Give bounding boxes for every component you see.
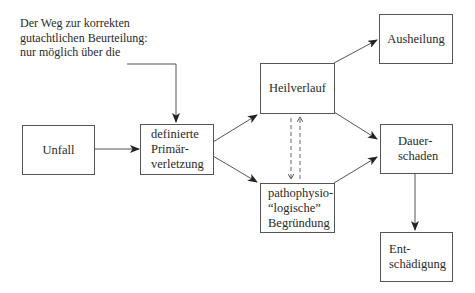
- edge-primaerverletzung-to-pathophysiologisch: [213, 156, 257, 182]
- node-primaerverletzung-line-3: verletzung: [151, 157, 204, 172]
- node-pathophysiologisch: pathophysio- “logische” Begründung: [260, 183, 335, 233]
- node-ausheilung: Ausheilung: [379, 14, 453, 64]
- node-unfall: Unfall: [22, 125, 95, 175]
- edge-heilverlauf-to-dauerschaden: [334, 112, 377, 139]
- node-dauerschaden-line-2: schaden: [398, 149, 438, 164]
- node-primaerverletzung: definierte Primär- verletzung: [140, 124, 214, 175]
- node-pathophysiologisch-line-1: pathophysio-: [268, 186, 333, 201]
- node-primaerverletzung-line-2: Primär-: [151, 142, 189, 157]
- edge-pathophysiologisch-to-dauerschaden: [334, 157, 377, 183]
- node-heilverlauf: Heilverlauf: [260, 63, 335, 114]
- node-heilverlauf-label: Heilverlauf: [269, 81, 326, 96]
- annotation-line-2: gutachtlichen Beurteilung:: [20, 31, 148, 46]
- annotation-line-1: Der Weg zur korrekten: [20, 16, 148, 31]
- node-ausheilung-label: Ausheilung: [387, 32, 445, 47]
- node-primaerverletzung-line-1: definierte: [151, 127, 199, 142]
- node-pathophysiologisch-line-3: Begründung: [268, 216, 330, 231]
- annotation-line-3: nur möglich über die: [20, 45, 148, 60]
- node-dauerschaden: Dauer- schaden: [380, 124, 453, 174]
- node-pathophysiologisch-line-2: “logische”: [268, 201, 321, 216]
- edge-heilverlauf-to-ausheilung: [334, 40, 377, 63]
- node-entschaedigung-line-1: Ent-: [389, 242, 411, 257]
- edge-annotation-to-primaerverletzung: [127, 64, 176, 122]
- node-dauerschaden-line-1: Dauer-: [398, 134, 432, 149]
- edge-primaerverletzung-to-heilverlauf: [213, 115, 257, 142]
- annotation-text: Der Weg zur korrekten gutachtlichen Beur…: [20, 16, 148, 60]
- flow-diagram: Der Weg zur korrekten gutachtlichen Beur…: [0, 0, 475, 293]
- node-entschaedigung-line-2: schädigung: [389, 257, 446, 272]
- node-entschaedigung: Ent- schädigung: [380, 232, 453, 282]
- node-unfall-label: Unfall: [43, 143, 75, 158]
